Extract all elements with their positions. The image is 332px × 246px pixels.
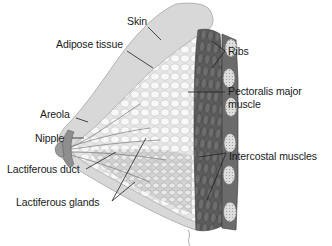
label-adipose-tissue: Adipose tissue (56, 38, 123, 50)
vessel-detail (188, 230, 190, 246)
label-pectoralis-major-line2: muscle (228, 98, 261, 110)
breast-anatomy-illustration (0, 0, 332, 246)
label-ribs: Ribs (228, 45, 249, 57)
label-skin: Skin (127, 15, 147, 27)
intercostal-muscles-band (222, 34, 238, 230)
label-lactiferous-glands: Lactiferous glands (16, 196, 99, 208)
label-lactiferous-duct: Lactiferous duct (7, 163, 80, 175)
label-intercostal-muscles: Intercostal muscles (229, 150, 317, 162)
label-pectoralis-major-line1: Pectoralis major (228, 85, 302, 97)
label-areola: Areola (40, 108, 70, 120)
label-nipple: Nipple (35, 132, 64, 144)
